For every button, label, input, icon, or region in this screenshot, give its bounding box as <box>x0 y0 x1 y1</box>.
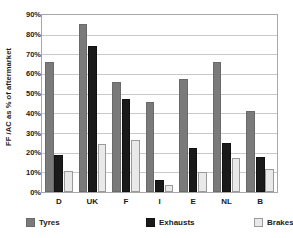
bar-tyres-b <box>246 111 255 192</box>
bar-tyres-d <box>45 62 54 192</box>
bar-exhausts-d <box>54 155 63 192</box>
legend-item-tyres[interactable]: Tyres <box>26 213 60 231</box>
bar-exhausts-i <box>155 180 164 192</box>
bar-brakes-e <box>198 172 207 192</box>
legend-label: Exhausts <box>159 218 195 227</box>
x-axis-tick-label: E <box>190 197 195 206</box>
bar-tyres-f <box>112 82 121 192</box>
x-axis-tick-label: D <box>56 197 62 206</box>
bar-exhausts-uk <box>88 46 97 192</box>
y-axis-tick-label: 90% <box>7 10 41 19</box>
bar-brakes-b <box>265 169 274 192</box>
bar-chart: FF /AC as % of aftermarket 90%80%70%60%5… <box>0 0 293 238</box>
bars-layer <box>42 15 277 192</box>
bar-group <box>143 15 177 192</box>
x-axis-tick-label: B <box>257 197 263 206</box>
y-axis-tick-label: 40% <box>7 108 41 117</box>
bar-exhausts-f <box>122 99 131 192</box>
bar-group <box>243 15 277 192</box>
x-axis-tick-label: NL <box>221 197 232 206</box>
bar-group <box>176 15 210 192</box>
y-axis-tick-label: 80% <box>7 29 41 38</box>
x-axis-tick-label: I <box>158 197 160 206</box>
bar-brakes-i <box>165 185 174 192</box>
bar-brakes-d <box>64 171 73 192</box>
legend-label: Brakes <box>267 218 293 227</box>
bar-brakes-uk <box>98 144 107 192</box>
x-axis-tick-label: F <box>123 197 128 206</box>
bar-brakes-nl <box>232 158 241 192</box>
y-axis-tick-label: 50% <box>7 89 41 98</box>
bar-exhausts-b <box>256 157 265 192</box>
legend-swatch-brakes-icon <box>254 218 263 227</box>
legend-label: Tyres <box>39 218 60 227</box>
y-axis-tick-label: 70% <box>7 49 41 58</box>
y-axis-tick-label: 20% <box>7 148 41 157</box>
bar-exhausts-e <box>189 148 198 192</box>
x-axis-tick-label: UK <box>87 197 99 206</box>
bar-tyres-i <box>146 102 155 192</box>
y-axis-tick-label: 30% <box>7 128 41 137</box>
bar-group <box>210 15 244 192</box>
bar-group <box>76 15 110 192</box>
legend-item-exhausts[interactable]: Exhausts <box>146 213 195 231</box>
bar-tyres-e <box>179 79 188 192</box>
bar-exhausts-nl <box>222 143 231 192</box>
chart-legend: TyresExhaustsBrakes <box>26 213 282 231</box>
y-axis-tick-label: 0% <box>7 188 41 197</box>
y-axis-tick-label: 60% <box>7 69 41 78</box>
y-axis-tick-label: 10% <box>7 168 41 177</box>
legend-item-brakes[interactable]: Brakes <box>254 213 293 231</box>
legend-swatch-tyres-icon <box>26 218 35 227</box>
bar-group <box>42 15 76 192</box>
legend-swatch-exhausts-icon <box>146 218 155 227</box>
bar-tyres-nl <box>213 62 222 192</box>
bar-brakes-f <box>131 140 140 192</box>
bar-group <box>109 15 143 192</box>
bar-tyres-uk <box>79 24 88 192</box>
